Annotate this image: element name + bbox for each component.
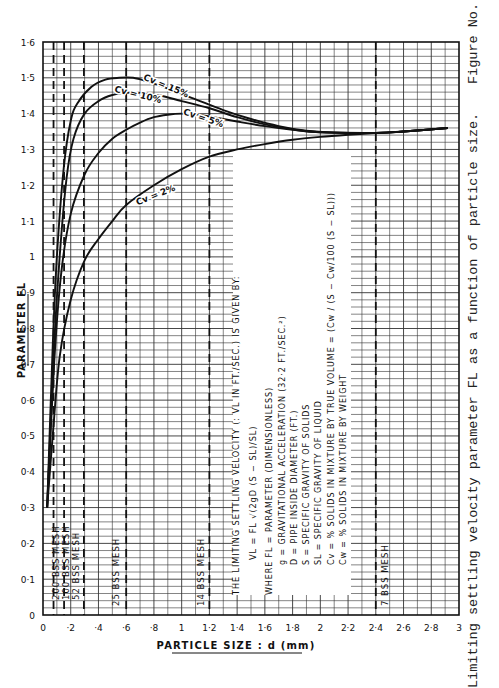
settling-velocity-chart: 200 BSS MESH100 BSS MESH52 BSS MESH25 BS… [0,0,499,688]
y-tick-label: 0·5 [21,431,35,441]
x-tick-label: ·4 [94,623,103,633]
svg-text:PARTICLE SIZE : d (mm): PARTICLE SIZE : d (mm) [157,640,316,651]
y-tick-label: 1·4 [21,109,36,119]
mesh-label: 25 BSS MESH [111,538,121,606]
x-tick-label: ·6 [122,623,131,633]
mesh-label: 200 BSS MESH [51,525,61,600]
y-tick-label: 0·2 [21,539,35,549]
y-tick-label: 1·3 [21,145,35,155]
x-axis-ticks: 0·2·4·6·811·21·41·61·822·22·42·62·83 [40,623,462,633]
svg-text:PARAMETER FL: PARAMETER FL [16,282,27,378]
x-tick-label: 1·4 [230,623,245,633]
figure-number-label: Figure No. [466,3,481,84]
mesh-label: 7 BSS MESH [380,544,390,606]
mesh-label: 14 BSS MESH [196,538,206,606]
cv-curve-labels: Cv = 15%Cv = 10%Cv = 5%Cv = 2% [114,72,225,207]
x-tick-label: 0 [40,623,46,633]
x-tick-label: 1 [179,623,185,633]
annotation-where-line: g = GRAVITATIONAL ACCELERATION (32·2 FT.… [278,316,287,565]
x-tick-label: 1·2 [202,623,216,633]
annotation-where-line: Cv = % SOLIDS IN MIXTURE BY TRUE VOLUME … [327,192,336,565]
x-tick-label: 1·6 [258,623,273,633]
y-tick-label: 0·4 [21,467,36,477]
y-tick-label: 0·1 [21,575,35,585]
x-tick-label: 2 [317,623,323,633]
y-tick-label: 1 [29,252,35,262]
y-tick-label: 0·3 [21,503,35,513]
annotation-where-line: WHERE FL = PARAMETER (DIMENSIONLESS) [265,387,274,595]
y-tick-label: 1·6 [21,38,36,48]
x-tick-label: 2·8 [424,623,439,633]
x-tick-label: 2·6 [396,623,411,633]
mesh-label: 100 BSS MESH [61,525,71,600]
y-tick-label: 0 [29,611,35,621]
y-tick-label: 1·5 [21,73,35,83]
y-tick-label: 0·6 [21,396,36,406]
x-tick-label: ·2 [66,623,75,633]
mesh-label: 52 BSS MESH [71,532,81,600]
cv-curve-label: Cv = 10% [114,84,163,105]
x-tick-label: 1·8 [285,623,300,633]
x-tick-label: 3 [456,623,462,633]
x-tick-label: 2·4 [369,623,384,633]
y-tick-label: 1·2 [21,181,35,191]
y-tick-label: 1·1 [21,217,35,227]
x-tick-label: 2·2 [341,623,355,633]
annotation-formula: VL = FL √(2gD (S − SL)/SL) [248,426,258,560]
annotation-heading: THE LIMITING SETTLING VELOCITY (: VL IN … [231,276,241,596]
formula-annotation: THE LIMITING SETTLING VELOCITY (: VL IN … [231,150,351,596]
annotation-where-line: S = SPECIFIC GRAVITY OF SOLIDS [302,404,311,565]
annotation-where-line: SL = SPECIFIC GRAVITY OF LIQUID [314,400,323,565]
y-axis-label: PARAMETER FL [16,282,28,378]
figure-caption: Limiting settling velocity parameter FL … [466,113,481,688]
annotation-where-line: Cw = % SOLIDS IN MIXTURE BY WEIGHT [339,374,348,565]
caption-text: Limiting settling velocity parameter FL … [466,113,481,688]
x-tick-label: ·8 [150,623,159,633]
cv-curve-label: Cv = 2% [134,183,176,208]
annotation-where-line: D = PIPE INSIDE DIAMETER (FT.) [290,410,299,565]
x-axis-label: PARTICLE SIZE : d (mm) [157,640,316,653]
